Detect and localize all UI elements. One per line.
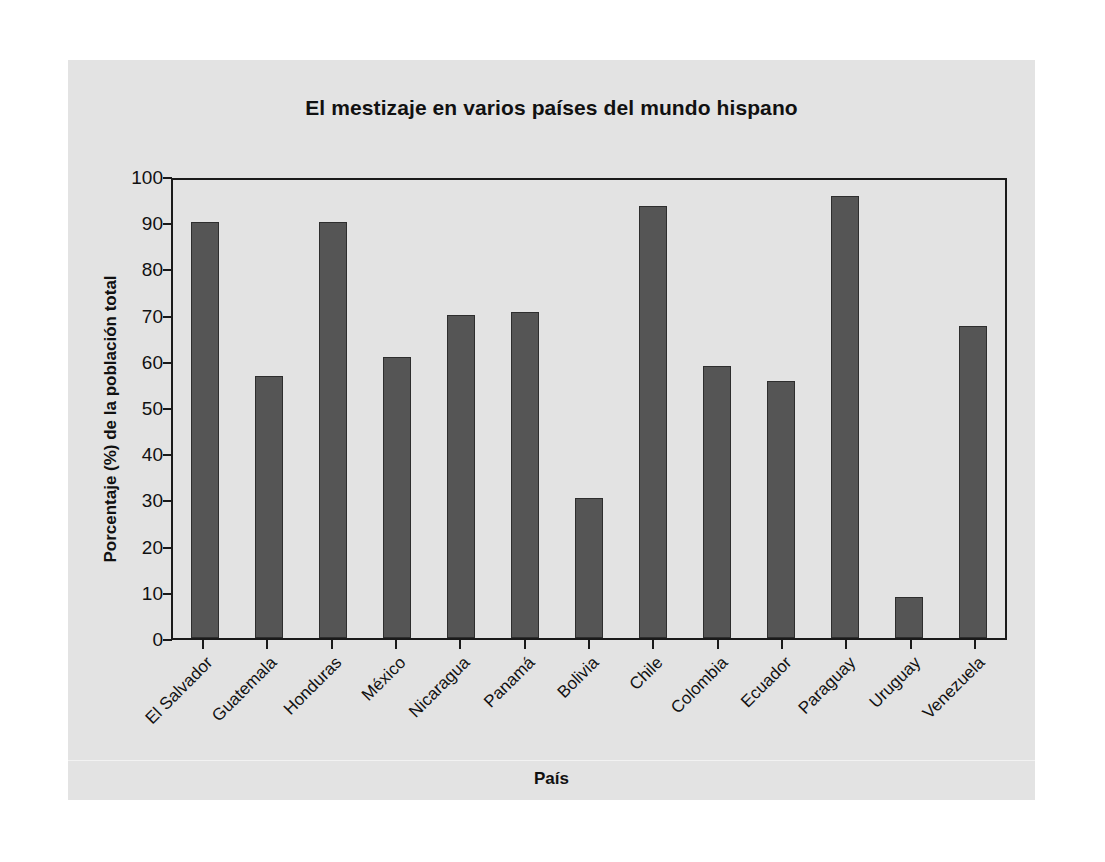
x-axis-tick-mark	[717, 640, 719, 649]
x-axis-tick-mark	[331, 640, 333, 649]
x-axis-tick-mark	[395, 640, 397, 649]
bar[interactable]	[447, 315, 475, 638]
bar-slot	[813, 180, 877, 638]
x-tick-slot	[878, 640, 942, 649]
x-axis-tick-mark	[202, 640, 204, 649]
bar[interactable]	[511, 312, 539, 638]
chart-title: El mestizaje en varios países del mundo …	[68, 96, 1035, 120]
x-tick-slot	[557, 640, 621, 649]
x-axis-tick-label: México	[358, 653, 410, 705]
bar-slot	[941, 180, 1005, 638]
x-axis-tick-marks	[171, 640, 1007, 649]
bar-slot	[493, 180, 557, 638]
x-axis-tick-mark	[459, 640, 461, 649]
x-axis-tick-mark	[910, 640, 912, 649]
bar-slot	[557, 180, 621, 638]
x-axis-tick-mark	[266, 640, 268, 649]
bar[interactable]	[959, 326, 987, 638]
bars-container	[173, 180, 1005, 638]
x-axis-tick-mark	[524, 640, 526, 649]
chart-figure: El mestizaje en varios países del mundo …	[68, 60, 1035, 800]
x-axis-tick-label: Chile	[626, 653, 668, 695]
x-tick-slot	[621, 640, 685, 649]
x-tick-slot	[814, 640, 878, 649]
bar-slot	[877, 180, 941, 638]
panel-divider	[68, 760, 1035, 761]
x-axis-tick-labels: El SalvadorGuatemalaHondurasMéxicoNicara…	[171, 649, 1007, 754]
bar[interactable]	[895, 597, 923, 638]
x-axis-tick-mark	[974, 640, 976, 649]
bar-slot	[237, 180, 301, 638]
x-axis-title: País	[68, 769, 1035, 789]
x-tick-slot	[943, 640, 1007, 649]
bar-slot	[429, 180, 493, 638]
bar-slot	[749, 180, 813, 638]
x-axis-tick-mark	[781, 640, 783, 649]
bar-slot	[685, 180, 749, 638]
bar[interactable]	[767, 381, 795, 638]
bar-slot	[301, 180, 365, 638]
bar[interactable]	[383, 357, 411, 638]
bar[interactable]	[639, 206, 667, 638]
bar[interactable]	[575, 498, 603, 638]
plot-area	[171, 178, 1007, 640]
bar[interactable]	[703, 366, 731, 638]
x-axis-tick-label: Bolivia	[554, 653, 604, 703]
bar-slot	[365, 180, 429, 638]
bar-slot	[621, 180, 685, 638]
x-axis-tick-mark	[588, 640, 590, 649]
x-tick-slot	[750, 640, 814, 649]
x-tick-slot	[235, 640, 299, 649]
x-axis-tick-mark	[845, 640, 847, 649]
bar[interactable]	[319, 222, 347, 638]
x-tick-slot	[300, 640, 364, 649]
x-label-slot: Honduras	[300, 649, 364, 754]
x-axis-tick-label: El Salvador	[142, 653, 218, 729]
y-axis-tick-marks	[68, 178, 178, 640]
x-tick-slot	[493, 640, 557, 649]
x-label-slot: Bolivia	[557, 649, 621, 754]
x-tick-slot	[686, 640, 750, 649]
x-label-slot: Venezuela	[943, 649, 1007, 754]
bar[interactable]	[191, 222, 219, 638]
bar[interactable]	[831, 196, 859, 638]
bar-slot	[173, 180, 237, 638]
x-tick-slot	[428, 640, 492, 649]
x-label-slot: Nicaragua	[428, 649, 492, 754]
x-axis-tick-mark	[652, 640, 654, 649]
bar[interactable]	[255, 376, 283, 638]
x-tick-slot	[364, 640, 428, 649]
x-tick-slot	[171, 640, 235, 649]
x-label-slot: Panamá	[493, 649, 557, 754]
